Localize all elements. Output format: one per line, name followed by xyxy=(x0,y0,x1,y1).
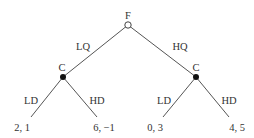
left-node-filled-circle xyxy=(60,74,66,80)
right-hd-label: HD xyxy=(221,95,237,106)
payoff-1: 2, 1 xyxy=(14,122,30,133)
root-node-open-circle xyxy=(125,22,131,28)
game-tree: F LQ HQ C C LD HD LD HD 2, 1 6, −1 0, 3 … xyxy=(0,0,254,138)
action-lq-label: LQ xyxy=(76,41,90,52)
left-player-label: C xyxy=(58,62,65,73)
payoff-3: 0, 3 xyxy=(147,122,163,133)
edge-lq xyxy=(63,25,128,77)
root-player-label: F xyxy=(125,10,131,21)
action-hq-label: HQ xyxy=(172,41,188,52)
left-ld-label: LD xyxy=(24,95,38,106)
left-hd-label: HD xyxy=(89,95,105,106)
payoff-2: 6, −1 xyxy=(93,122,115,133)
payoff-4: 4, 5 xyxy=(229,122,245,133)
right-ld-label: LD xyxy=(157,95,171,106)
right-node-filled-circle xyxy=(193,74,199,80)
right-player-label: C xyxy=(192,62,199,73)
